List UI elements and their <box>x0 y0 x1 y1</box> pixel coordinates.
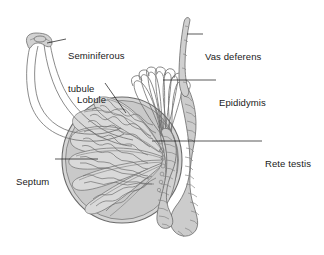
label-epididymis: Epididymis <box>219 75 266 130</box>
label-rete-testis: Rete testis <box>265 136 311 191</box>
label-lobule-line1: Lobule <box>77 94 106 105</box>
label-vas-deferens-line1: Vas deferens <box>205 51 261 62</box>
label-septum: Septum <box>16 154 49 209</box>
vas-deferens <box>179 18 190 97</box>
label-lobule: Lobule <box>77 72 106 127</box>
diagram-canvas <box>0 0 324 255</box>
label-rete-testis-line1: Rete testis <box>265 158 311 169</box>
label-septum-line1: Septum <box>16 176 49 187</box>
anatomy-figure: Seminiferous tubule Lobule Vas deferens … <box>0 0 324 255</box>
label-seminiferous-tubule-line1: Seminiferous <box>68 50 125 61</box>
label-epididymis-line1: Epididymis <box>219 97 266 108</box>
